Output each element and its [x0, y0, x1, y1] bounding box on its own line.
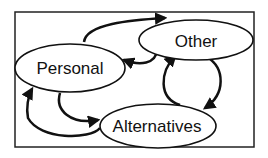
node-personal: Personal — [15, 44, 125, 92]
node-alternatives: Alternatives — [100, 104, 216, 148]
arrow-personal-to-alternatives — [59, 93, 98, 121]
node-other: Other — [139, 20, 253, 60]
arrow-alternatives-to-other — [164, 56, 180, 105]
arrow-other-to-alternatives — [205, 57, 221, 108]
node-label-alternatives: Alternatives — [113, 117, 202, 136]
node-label-personal: Personal — [36, 59, 103, 78]
node-label-other: Other — [175, 32, 218, 51]
cycle-diagram: Personal Other Alternatives — [0, 0, 268, 158]
